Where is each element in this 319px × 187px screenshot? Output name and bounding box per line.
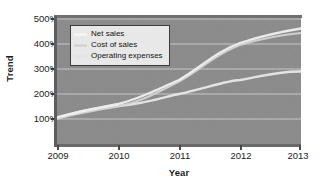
x-tick-label-2009: 2009 [38,150,78,161]
legend-label-operating-expenses: Operating expenses [91,51,163,61]
x-axis-title: Year [57,167,301,178]
x-tick-label-2010: 2010 [99,150,139,161]
legend-item-net-sales: Net sales [74,29,165,39]
legend-item-operating-expenses: Operating expenses [74,51,165,61]
legend-swatch-icon-net-sales [74,33,87,36]
legend-swatch-icon-cost-of-sales [74,44,87,47]
chart-legend: Net sales Cost of sales Operating expens… [70,25,170,66]
x-tick-label-2013: 2013 [278,150,318,161]
legend-item-cost-of-sales: Cost of sales [74,40,165,50]
line-chart-figure: Trend 500% 400% 300% 200% 100% [0,0,319,187]
legend-label-net-sales: Net sales [91,29,124,39]
legend-label-cost-of-sales: Cost of sales [91,40,137,50]
x-tick-label-2012: 2012 [221,150,261,161]
x-tick-label-2011: 2011 [160,150,200,161]
legend-swatch-icon-operating-expenses [74,55,87,58]
